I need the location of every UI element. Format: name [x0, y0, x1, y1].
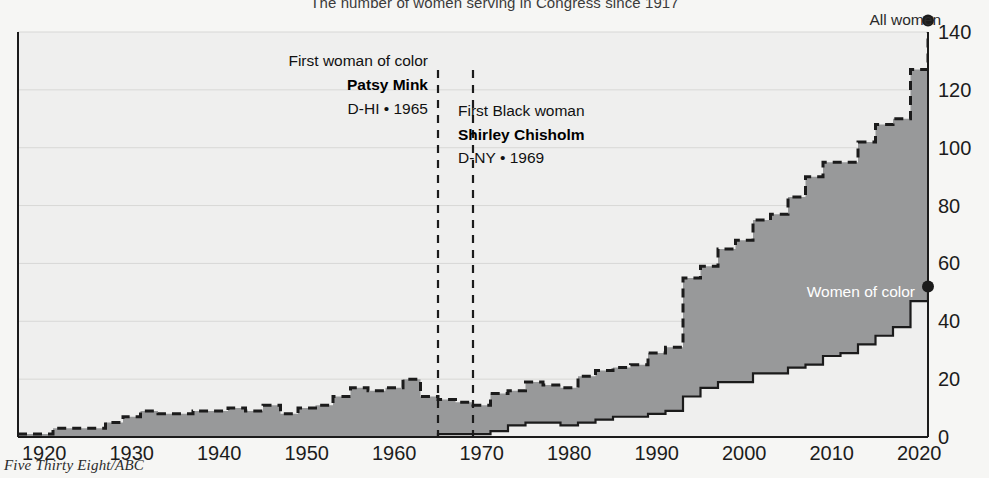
annotation-patsy-mink-line1: First woman of color [288, 52, 428, 69]
y-tick-120: 120 [938, 79, 971, 101]
series-label-women-of-color: Women of color [807, 283, 915, 300]
y-tick-60: 60 [938, 252, 960, 274]
y-tick-40: 40 [938, 310, 960, 332]
y-tick-80: 80 [938, 195, 960, 217]
chart-svg: 020406080100120140 192019301940195019601… [0, 0, 989, 478]
x-tick-2000: 2000 [722, 442, 767, 464]
y-tick-20: 20 [938, 368, 960, 390]
y-tick-140: 140 [938, 21, 971, 43]
x-tick-2020: 2020 [897, 442, 942, 464]
x-tick-2010: 2010 [810, 442, 855, 464]
annotation-patsy-mink-meta: D-HI • 1965 [348, 100, 428, 117]
series-label-all-women: All women [870, 11, 942, 28]
annotation-shirley-chisholm-meta: D-NY • 1969 [458, 149, 544, 166]
x-tick-1990: 1990 [635, 442, 680, 464]
chart-page: The number of women serving in Congress … [0, 0, 989, 478]
x-tick-1960: 1960 [372, 442, 417, 464]
x-tick-1940: 1940 [197, 442, 242, 464]
annotation-patsy-mink-name: Patsy Mink [347, 76, 428, 93]
annotation-shirley-chisholm-line1: First Black woman [458, 102, 585, 119]
y-axis-tick-labels: 020406080100120140 [938, 21, 971, 448]
x-tick-1950: 1950 [285, 442, 330, 464]
x-axis-tick-labels: 1920193019401950196019701980199020002010… [22, 442, 942, 464]
x-tick-1970: 1970 [460, 442, 505, 464]
source-credit: Five Thirty Eight/ABC [4, 457, 144, 474]
y-tick-100: 100 [938, 137, 971, 159]
annotation-shirley-chisholm-name: Shirley Chisholm [458, 126, 585, 143]
x-tick-1980: 1980 [547, 442, 592, 464]
